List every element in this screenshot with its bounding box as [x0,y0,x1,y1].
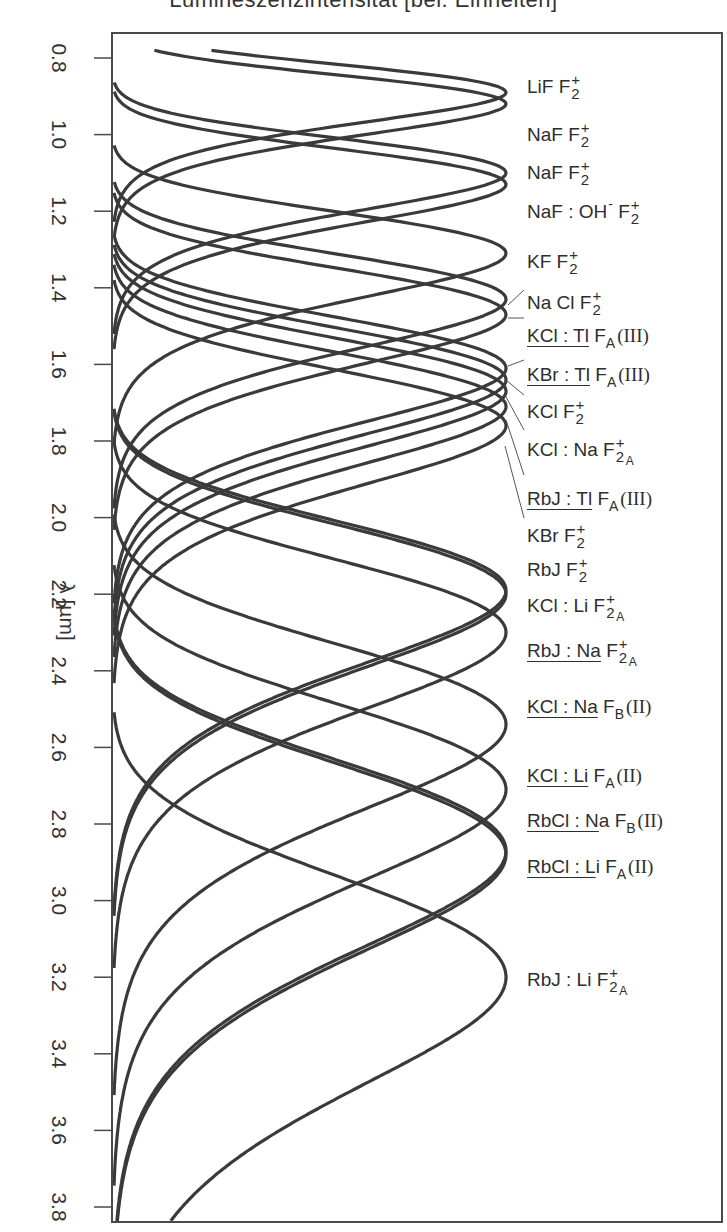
y-tick-label: 1.8 [48,426,71,455]
band-label-kcl-f2: KCl F+2 [527,402,585,421]
y-tick-label: 1.6 [48,350,71,379]
y-tick-label: 3.4 [48,1039,71,1069]
band-label-kcl-li-fa: KCl : Li FA(II) [527,766,642,785]
band-label-kcl-na-f2a: KCl : Na F+2A [527,440,637,459]
y-tick-label: 1.0 [48,120,71,149]
y-tick-label: 3.6 [48,1116,71,1145]
band-label-rbj-li-f2a: RbJ : Li F+2A [527,970,630,989]
band-label-rbcl-na-fb: RbCl : Na FB(II) [527,811,663,830]
y-tick-label: 0.8 [48,43,71,72]
y-tick-label: 2.4 [48,656,71,686]
leader-line [505,446,524,518]
emission-band-curve [114,412,506,916]
band-label-kbr-tl-fa: KBr : Tl FA(III) [527,365,650,384]
y-axis-label: λ [µm] [56,583,79,641]
band-label-kcl-tl-fa: KCl : Tl FA(III) [527,326,649,345]
y-tick-label: 3.2 [48,963,71,992]
emission-curves [114,50,506,1221]
band-label-naf-oh-f2: NaF : OH- F+2 [527,202,640,221]
leader-line [508,290,524,305]
band-label-nacl-f2: Na Cl F+2 [527,293,601,312]
band-label-naf-f2-b: NaF F+2 [527,163,590,182]
y-tick-label: 2.0 [48,503,71,532]
band-label-kbr-f2: KBr F+2 [527,526,586,545]
band-label-rbj-f2: RbJ F+2 [527,560,588,579]
label-leader-lines [505,290,524,518]
y-tick-label: 3.0 [48,886,71,915]
band-label-rbj-tl-fa: RbJ : Tl FA(III) [527,489,652,508]
y-tick-label: 1.2 [48,197,71,226]
leader-line [508,360,524,366]
band-label-rbcl-li-fa: RbCl : Li FA(II) [527,857,653,876]
y-tick-label: 3.8 [48,1192,71,1221]
y-tick-label: 2.8 [48,809,71,838]
band-label-kcl-li-f2a: KCl : Li F+2A [527,596,627,615]
emission-band-curve [114,409,506,910]
emission-band-curve [114,712,506,1221]
emission-band-curve [114,565,506,1186]
emission-band-curve [114,443,506,969]
band-label-kcl-na-fb: KCl : Na FB(II) [527,697,651,716]
y-tick-label: 2.6 [48,733,71,762]
band-label-naf-f2-a: NaF F+2 [527,125,590,144]
band-label-lif-f2: LiF F+2 [527,77,580,96]
band-label-rbj-na-f2a: RbJ : Na F+2A [527,641,640,660]
y-tick-label: 1.4 [48,273,71,303]
leader-line [506,380,524,395]
leader-line [506,420,524,475]
band-label-kf-f2: KF F+2 [527,252,578,271]
emission-band-curve [114,616,506,1221]
